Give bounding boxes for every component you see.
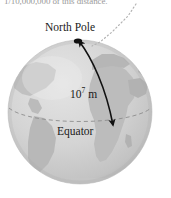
leader-dotted-line <box>92 4 136 46</box>
equator-label: Equator <box>57 125 93 137</box>
north-pole-label: North Pole <box>45 21 95 33</box>
north-pole-marker <box>74 38 82 43</box>
distance-label: 107 m <box>70 88 97 100</box>
distance-unit: m <box>85 88 97 100</box>
earth-radius-figure: 1/10,000,000 of this distance. <box>0 0 171 198</box>
distance-base: 10 <box>70 88 82 100</box>
